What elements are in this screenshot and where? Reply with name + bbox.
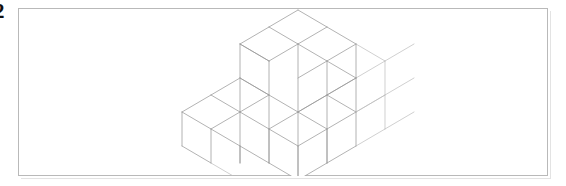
figure-number-label: 2 — [0, 1, 5, 22]
figure-artwork-area — [18, 8, 548, 176]
figure-root: 2 — [0, 0, 566, 186]
cube-face-fills — [182, 27, 385, 176]
isometric-cube-stack-drawing — [18, 8, 548, 176]
receding-guide-edges — [385, 44, 414, 129]
